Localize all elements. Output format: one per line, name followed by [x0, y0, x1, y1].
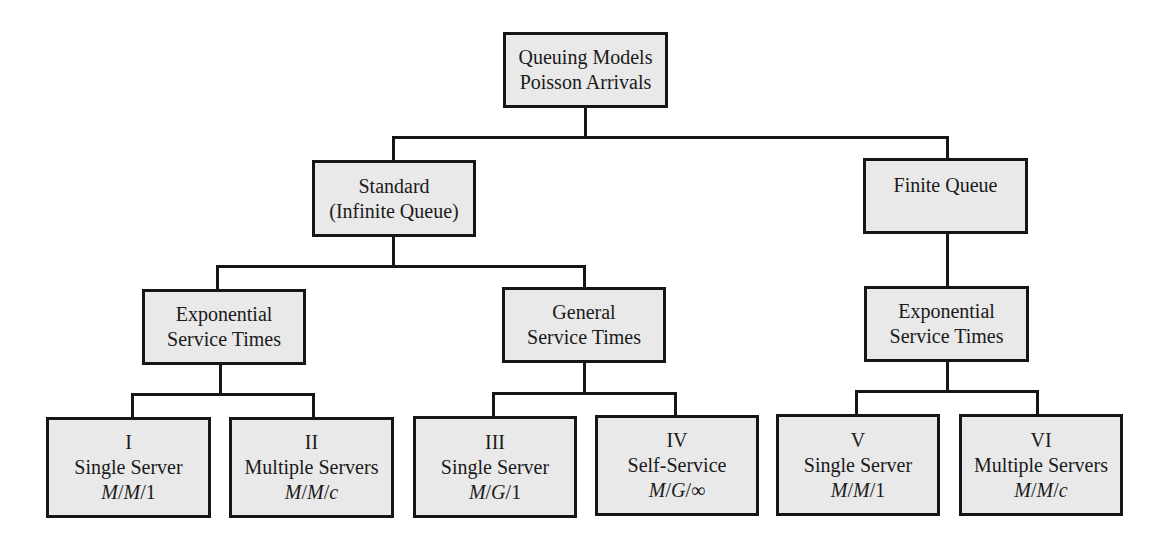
connector-std-exponential-drop — [216, 265, 219, 290]
leaf-label: Single Server — [441, 455, 549, 480]
leaf-kendall-notation: M/M/1 — [831, 478, 885, 503]
node-leaf-II: II Multiple Servers M/M/c — [229, 417, 394, 518]
connector-finite-stem — [946, 232, 949, 287]
connector-standard-drop — [392, 136, 395, 161]
leaf-numeral: V — [851, 428, 865, 453]
node-root: Queuing Models Poisson Arrivals — [503, 32, 668, 108]
leaf-numeral: II — [305, 430, 318, 455]
node-finite-queue: Finite Queue — [863, 158, 1028, 234]
leaf-kendall-notation: M/M/c — [285, 480, 338, 505]
node-leaf-V: V Single Server M/M/1 — [776, 414, 940, 516]
node-fin-exponential: Exponential Service Times — [864, 286, 1029, 362]
node-root-line-1: Queuing Models — [519, 45, 653, 70]
leaf-label: Single Server — [804, 453, 912, 478]
connector-IV-drop — [674, 392, 677, 416]
connector-III-drop — [492, 392, 495, 418]
connector-standard-stem — [392, 235, 395, 268]
leaf-kendall-notation: M/G/∞ — [649, 478, 706, 503]
node-leaf-IV: IV Self-Service M/G/∞ — [595, 415, 759, 516]
node-std-exponential: Exponential Service Times — [142, 289, 306, 365]
node-std-general: General Service Times — [502, 287, 666, 363]
leaf-kendall-notation: M/M/c — [1014, 478, 1067, 503]
connector-III-IV-bar — [492, 392, 677, 395]
connector-V-VI-bar — [855, 390, 1039, 393]
node-std-exponential-line-2: Service Times — [167, 327, 281, 352]
node-standard-line-2: (Infinite Queue) — [329, 199, 458, 224]
connector-I-drop — [131, 393, 134, 418]
connector-level1-bar — [392, 136, 949, 139]
connector-finite-drop — [946, 136, 949, 159]
node-leaf-VI: VI Multiple Servers M/M/c — [959, 414, 1123, 516]
connector-standard-bar — [216, 265, 586, 268]
connector-std-general-drop — [583, 265, 586, 288]
node-standard-line-1: Standard — [358, 174, 429, 199]
connector-V-drop — [855, 390, 858, 415]
leaf-label: Multiple Servers — [245, 455, 379, 480]
node-fin-exponential-line-1: Exponential — [898, 299, 995, 324]
node-std-general-line-2: Service Times — [527, 325, 641, 350]
node-leaf-I: I Single Server M/M/1 — [46, 417, 211, 518]
connector-fin-exponential-stem — [946, 360, 949, 392]
leaf-kendall-notation: M/G/1 — [469, 480, 521, 505]
connector-std-general-stem — [583, 361, 586, 394]
leaf-label: Self-Service — [628, 453, 727, 478]
node-leaf-III: III Single Server M/G/1 — [413, 416, 577, 518]
leaf-kendall-notation: M/M/1 — [101, 480, 155, 505]
leaf-label: Multiple Servers — [974, 453, 1108, 478]
node-standard: Standard (Infinite Queue) — [312, 160, 476, 237]
leaf-numeral: III — [485, 430, 505, 455]
leaf-numeral: I — [125, 430, 132, 455]
connector-II-drop — [312, 393, 315, 418]
leaf-label: Single Server — [74, 455, 182, 480]
node-std-exponential-line-1: Exponential — [176, 302, 273, 327]
leaf-numeral: VI — [1030, 428, 1051, 453]
node-fin-exponential-line-2: Service Times — [890, 324, 1004, 349]
connector-std-exponential-stem — [219, 363, 222, 395]
connector-VI-drop — [1036, 390, 1039, 415]
leaf-numeral: IV — [666, 428, 687, 453]
connector-root-stem — [584, 106, 587, 138]
node-root-line-2: Poisson Arrivals — [520, 70, 652, 95]
queuing-models-tree-diagram: Queuing Models Poisson Arrivals Standard… — [0, 0, 1164, 546]
node-std-general-line-1: General — [552, 300, 615, 325]
connector-I-II-bar — [131, 393, 315, 396]
node-finite-queue-line-1: Finite Queue — [894, 173, 998, 198]
